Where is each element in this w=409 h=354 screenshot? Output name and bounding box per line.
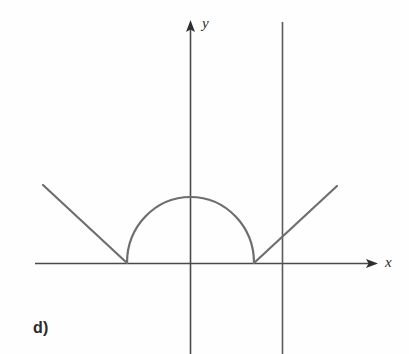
x-axis-label: x [385,255,392,270]
part-label: d) [33,319,49,337]
y-axis [186,20,195,354]
figure-canvas: y x d) [0,0,409,354]
y-axis-label: y [202,16,209,31]
x-axis [35,259,378,268]
right-ascending-ray [254,186,337,263]
left-descending-ray [43,185,127,263]
graph-svg [0,0,409,354]
